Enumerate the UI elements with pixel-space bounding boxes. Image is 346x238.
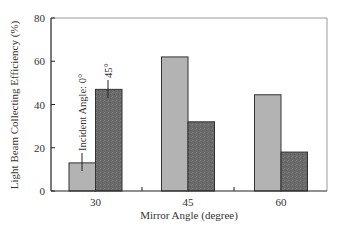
y-axis: 020406080 [34, 12, 55, 197]
x-tick-label: 30 [90, 196, 102, 208]
bar-45-series-0 [162, 57, 189, 191]
y-tick-label: 80 [34, 12, 46, 24]
x-axis-label: Mirror Angle (degree) [140, 209, 238, 222]
y-tick-label: 20 [34, 142, 46, 154]
svg-text:45°: 45° [103, 63, 114, 78]
x-tick-label: 60 [276, 196, 288, 208]
svg-text:Incident Angle: 0°: Incident Angle: 0° [77, 74, 88, 151]
y-tick-label: 40 [34, 99, 46, 111]
annotation-incident-0: Incident Angle: 0° [77, 74, 88, 171]
x-tick-label: 45 [183, 196, 195, 208]
bar-60-series-1 [281, 152, 308, 191]
y-tick-label: 0 [40, 185, 46, 197]
bar-30-series-1 [96, 89, 123, 191]
bar-45-series-1 [188, 122, 215, 191]
bar-chart: 020406080 304560 Mirror Angle (degree) L… [0, 0, 346, 238]
y-tick-label: 60 [34, 55, 46, 67]
bar-60-series-0 [255, 95, 282, 191]
y-axis-label: Light Beam Collecting Efficiency (%) [8, 20, 21, 189]
